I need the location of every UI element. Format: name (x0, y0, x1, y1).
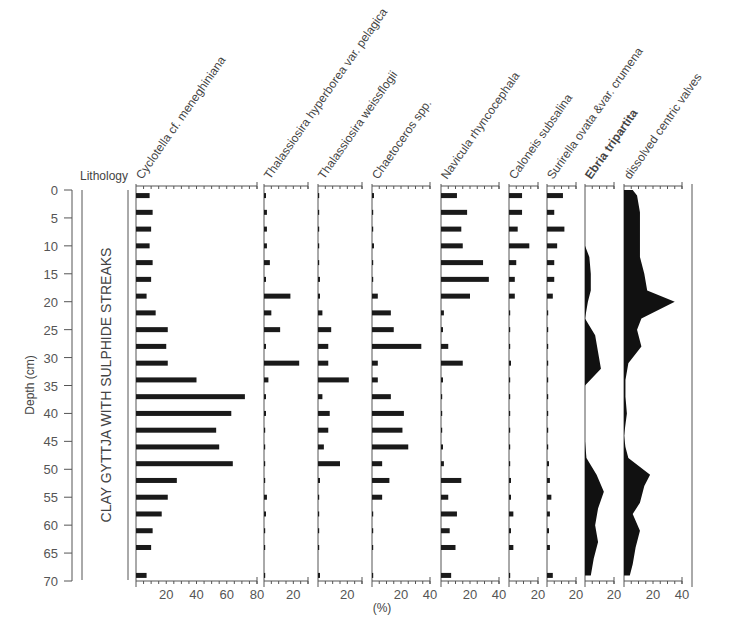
x-tick-label: 20 (607, 587, 621, 602)
data-bar (372, 260, 373, 265)
data-bar (441, 394, 442, 399)
depth-tick-label: 45 (44, 434, 58, 449)
data-bar (318, 411, 330, 416)
data-bar (509, 545, 513, 550)
data-bar (136, 411, 231, 416)
data-bar (441, 461, 444, 466)
depth-tick-label: 30 (44, 351, 58, 366)
data-bar (509, 277, 515, 282)
data-bar (441, 444, 443, 449)
data-bar (264, 210, 267, 215)
data-bar (509, 428, 510, 433)
depth-tick-label: 20 (44, 295, 58, 310)
data-bar (318, 210, 319, 215)
data-bar (509, 310, 510, 315)
x-tick-label: 20 (463, 587, 477, 602)
data-bar (547, 294, 553, 299)
depth-axis: 0510152025303540455055606570 (44, 183, 72, 589)
data-bar (318, 327, 331, 332)
data-bar (509, 260, 516, 265)
depth-tick-label: 10 (44, 239, 58, 254)
data-bar (547, 277, 554, 282)
data-bar (509, 444, 510, 449)
data-bar (136, 361, 168, 366)
data-bar (318, 394, 322, 399)
data-bar (372, 227, 373, 232)
data-bar (547, 193, 563, 198)
data-bar (136, 511, 162, 516)
data-bar (509, 377, 510, 382)
data-bar (264, 394, 266, 399)
data-bar (547, 394, 548, 399)
data-bar (318, 277, 320, 282)
data-bar (547, 444, 548, 449)
depth-tick-label: 65 (44, 546, 58, 561)
x-tick-label: 20 (394, 587, 408, 602)
data-bar (509, 243, 529, 248)
data-bar (372, 573, 373, 578)
data-bar (264, 294, 290, 299)
data-bar (547, 260, 554, 265)
data-bar (372, 478, 389, 483)
data-bar (136, 528, 153, 533)
data-bar (509, 361, 511, 366)
depth-tick-label: 60 (44, 518, 58, 533)
data-bar (318, 260, 319, 265)
x-tick-label: 20 (531, 587, 545, 602)
depth-tick-label: 25 (44, 323, 58, 338)
data-bar (264, 511, 266, 516)
data-bar (441, 411, 442, 416)
data-bar (547, 545, 550, 550)
data-bar (547, 495, 551, 500)
data-bar (372, 377, 378, 382)
data-bar (509, 411, 510, 416)
data-bar (509, 210, 522, 215)
data-bar (441, 377, 443, 382)
taxon-name: Navicula rhyncocephala (438, 69, 523, 182)
data-bar (372, 411, 404, 416)
x-tick-label: 20 (286, 587, 300, 602)
pollen-diatom-stratigraphic-chart: 0510152025303540455055606570 Depth (cm) … (0, 0, 730, 639)
data-bar (441, 344, 448, 349)
data-bar (372, 294, 378, 299)
data-bar (372, 444, 408, 449)
taxon-panel: 2040dissolved centric valves (621, 70, 705, 602)
data-bar (264, 444, 265, 449)
data-bar (264, 327, 280, 332)
data-bar (318, 227, 319, 232)
data-bar (318, 377, 349, 382)
data-bar (441, 478, 461, 483)
data-bar (264, 461, 265, 466)
data-bar (372, 327, 394, 332)
taxa-panels: 20406080Cyclotella cf. meneghiniana20Tha… (133, 5, 705, 602)
data-bar (372, 210, 373, 215)
data-bar (264, 573, 265, 578)
data-bar (136, 294, 147, 299)
data-bar (441, 495, 448, 500)
data-bar (372, 461, 382, 466)
data-bar (318, 193, 319, 198)
data-bar (372, 394, 391, 399)
x-tick-label: 80 (250, 587, 264, 602)
taxon-name: Chaetoceros spp. (369, 97, 434, 182)
data-bar (264, 193, 266, 198)
data-bar (136, 260, 153, 265)
data-bar (136, 478, 177, 483)
data-bar (318, 428, 328, 433)
depth-axis-label: Depth (cm) (23, 355, 37, 414)
data-bar (441, 310, 444, 315)
taxon-name: Cyclotella cf. meneghiniana (133, 53, 229, 182)
data-bar (547, 361, 548, 366)
data-bar (264, 411, 266, 416)
data-bar (136, 210, 153, 215)
lithology-header: Lithology (80, 169, 128, 183)
data-bar (264, 277, 266, 282)
data-bar (264, 243, 267, 248)
data-bar (547, 210, 554, 215)
area-curve (624, 190, 675, 575)
data-bar (372, 310, 391, 315)
data-bar (441, 210, 467, 215)
data-bar (509, 573, 510, 578)
data-bar (318, 545, 319, 550)
data-bar (547, 478, 550, 483)
